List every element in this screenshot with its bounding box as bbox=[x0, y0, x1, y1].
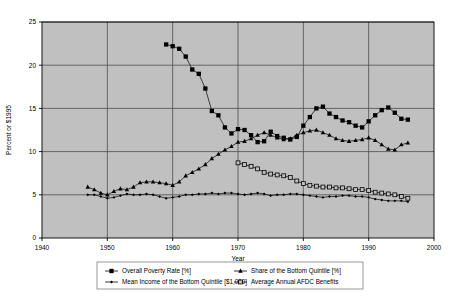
data-point-marker bbox=[386, 105, 390, 109]
data-point-marker bbox=[386, 192, 390, 196]
legend-label: Mean Income of the Bottom Quintile [$1,0… bbox=[122, 278, 247, 286]
data-point-marker bbox=[184, 54, 188, 58]
data-point-marker bbox=[321, 105, 325, 109]
x-axis-tick-label: 1950 bbox=[100, 244, 115, 251]
data-point-marker bbox=[367, 119, 371, 123]
legend-label: Share of the Bottom Quintile [%] bbox=[251, 267, 341, 275]
data-point-marker bbox=[262, 139, 266, 143]
data-point-marker bbox=[353, 124, 357, 128]
data-point-marker bbox=[249, 164, 253, 168]
y-axis-tick-label: 25 bbox=[29, 18, 37, 25]
data-point-marker bbox=[223, 125, 227, 129]
y-axis-title: Percent or $1995 bbox=[5, 105, 12, 155]
data-point-marker bbox=[282, 174, 286, 178]
data-point-marker bbox=[239, 280, 243, 284]
data-point-marker bbox=[177, 47, 181, 51]
x-axis-tick-label: 1980 bbox=[296, 244, 311, 251]
data-point-marker bbox=[314, 184, 318, 188]
data-point-marker bbox=[314, 106, 318, 110]
data-point-marker bbox=[236, 161, 240, 165]
data-point-marker bbox=[406, 117, 410, 121]
data-point-marker bbox=[190, 67, 194, 71]
y-axis-tick-label: 10 bbox=[29, 148, 37, 155]
data-point-marker bbox=[229, 131, 233, 135]
x-axis-tick-label: 1940 bbox=[35, 244, 50, 251]
data-point-marker bbox=[236, 127, 240, 131]
data-point-marker bbox=[269, 172, 273, 176]
data-point-marker bbox=[406, 196, 410, 200]
y-axis-tick-label: 15 bbox=[29, 105, 37, 112]
data-point-marker bbox=[373, 113, 377, 117]
data-point-marker bbox=[203, 86, 207, 90]
data-point-marker bbox=[275, 173, 279, 177]
poverty-chart: 05101520251940195019601970198019902000Ye… bbox=[0, 0, 463, 301]
legend-label: Overall Poverty Rate [%] bbox=[122, 267, 191, 275]
data-point-marker bbox=[210, 109, 214, 113]
data-point-marker bbox=[347, 187, 351, 191]
data-point-marker bbox=[334, 186, 338, 190]
legend-item[interactable]: Mean Income of the Bottom Quintile [$1,0… bbox=[105, 278, 247, 286]
data-point-marker bbox=[327, 111, 331, 115]
legend-item[interactable]: Share of the Bottom Quintile [%] bbox=[234, 267, 341, 275]
data-point-marker bbox=[243, 163, 247, 167]
data-point-marker bbox=[399, 195, 403, 199]
data-point-marker bbox=[321, 185, 325, 189]
legend-label: Average Annual AFDC Benefits bbox=[251, 278, 338, 286]
data-point-marker bbox=[109, 269, 113, 273]
data-point-marker bbox=[295, 179, 299, 183]
data-point-marker bbox=[262, 170, 266, 174]
data-point-marker bbox=[171, 44, 175, 48]
data-point-marker bbox=[380, 191, 384, 195]
y-axis-tick-label: 0 bbox=[32, 234, 36, 241]
data-point-marker bbox=[373, 190, 377, 194]
data-point-marker bbox=[164, 42, 168, 46]
y-axis-tick-label: 5 bbox=[32, 191, 36, 198]
data-point-marker bbox=[334, 115, 338, 119]
data-point-marker bbox=[341, 186, 345, 190]
data-point-marker bbox=[393, 193, 397, 197]
data-point-marker bbox=[354, 188, 358, 192]
data-point-marker bbox=[347, 120, 351, 124]
data-point-marker bbox=[301, 182, 305, 186]
x-axis-tick-label: 1960 bbox=[165, 244, 180, 251]
data-point-marker bbox=[328, 185, 332, 189]
data-point-marker bbox=[399, 117, 403, 121]
data-point-marker bbox=[242, 128, 246, 132]
data-point-marker bbox=[340, 118, 344, 122]
data-point-marker bbox=[197, 72, 201, 76]
y-axis-tick-label: 20 bbox=[29, 62, 37, 69]
chart-canvas: 05101520251940195019601970198019902000Ye… bbox=[0, 0, 463, 301]
data-point-marker bbox=[367, 189, 371, 193]
data-point-marker bbox=[288, 176, 292, 180]
data-point-marker bbox=[360, 188, 364, 192]
x-axis-tick-label: 2000 bbox=[427, 244, 442, 251]
x-axis-title: Year bbox=[231, 255, 245, 262]
x-axis-tick-label: 1970 bbox=[231, 244, 246, 251]
data-point-marker bbox=[380, 108, 384, 112]
x-axis-tick-label: 1990 bbox=[361, 244, 376, 251]
data-point-marker bbox=[308, 115, 312, 119]
data-point-marker bbox=[308, 183, 312, 187]
data-point-marker bbox=[255, 140, 259, 144]
data-point-marker bbox=[256, 167, 260, 171]
data-point-marker bbox=[216, 113, 220, 117]
data-point-marker bbox=[393, 111, 397, 115]
data-point-marker bbox=[360, 125, 364, 129]
data-point-marker bbox=[301, 124, 305, 128]
